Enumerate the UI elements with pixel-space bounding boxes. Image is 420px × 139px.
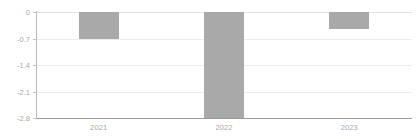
y-tick-label-2: -1.4: [0, 62, 30, 70]
x-tick-label-2021: 2021: [90, 124, 107, 132]
plot-area: [36, 12, 412, 118]
bar-2021: [79, 12, 119, 39]
y-tick-label-0: 0: [0, 9, 30, 17]
y-tick-label-1: -0.7: [0, 36, 30, 44]
y-axis-line: [36, 11, 37, 119]
x-axis-line: [36, 118, 412, 119]
y-tick-label-4: -2.8: [0, 115, 30, 123]
bar-2022: [204, 12, 244, 118]
x-tick-label-2022: 2022: [215, 124, 232, 132]
x-tick-label-2023: 2023: [341, 124, 358, 132]
bar-chart: 0 -0.7 -1.4 -2.1 -2.8 2021 2022 2023: [0, 0, 420, 139]
bar-2023: [329, 12, 369, 29]
y-tick-label-3: -2.1: [0, 89, 30, 97]
